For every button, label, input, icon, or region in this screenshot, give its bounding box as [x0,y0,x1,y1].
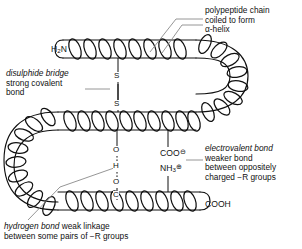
polypeptide-line-3: α-helix [205,25,270,35]
label-hydrogen-bond: hydrogen bond weak linkage between some … [4,222,128,241]
alpha-helix-coils-bottom [63,189,198,212]
alpha-helix-coils-right-bend [196,33,249,124]
backbone-rails [4,40,248,210]
amino-text: NH [160,163,172,173]
protein-structure-illustration [0,0,302,249]
diagram-canvas: polypeptide chain coiled to form α-helix… [0,0,302,249]
label-disulphide-bridge: disulphide bridge strong covalent bond [6,69,69,98]
n-terminus-n: N [61,44,67,54]
atom-carbon: C [113,191,119,199]
hydrogen-emphasis: hydrogen bond [4,221,59,231]
label-polypeptide-chain: polypeptide chain coiled to form α-helix [205,6,270,35]
alpha-helix-coils-left-bend [6,106,58,217]
label-amino-group: NH3⊕ [160,163,182,174]
atom-oxygen-bottom: O [113,178,119,186]
atom-sulphur-bottom: S [114,100,119,108]
carboxylate-charge: ⊖ [180,147,186,156]
atom-hydrogen: H [113,162,119,170]
electrovalent-line-4: charged −R groups [205,173,276,183]
carboxylate-text: COO [160,148,180,158]
label-electrovalent-bond: electrovalent bond weaker bond between o… [205,144,276,182]
amino-charge: ⊕ [176,162,182,171]
label-carboxylate-group: COO⊖ [160,148,186,159]
atom-sulphur-top: S [114,72,119,80]
hydrogen-line-2: between some pairs of −R groups [4,232,128,242]
alpha-helix-coils-middle [61,109,202,132]
label-n-terminus: H2N [51,45,67,55]
atom-oxygen-top: O [113,146,119,154]
hydrogen-rest: weak linkage [59,221,109,231]
label-c-terminus: COOH [205,200,231,210]
disulphide-line-3: bond [6,88,69,98]
